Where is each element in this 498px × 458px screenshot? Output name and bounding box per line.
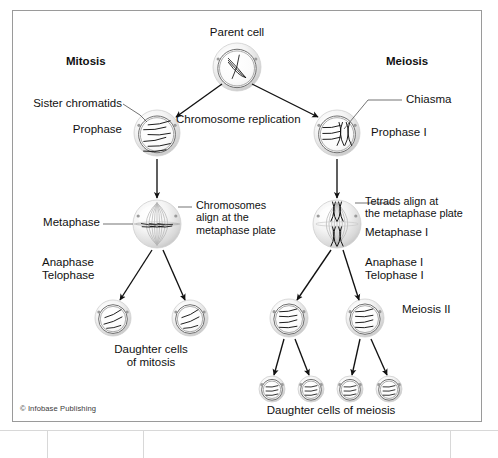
page-rule-vertical-right [450, 430, 451, 458]
page-rule-vertical-mid [143, 430, 144, 458]
label-anaphase-telophase: Anaphase Telophase [42, 256, 94, 282]
label-daughter-cells-meiosis: Daughter cells of meiosis [240, 404, 422, 417]
label-prophase-i: Prophase I [371, 126, 427, 139]
column-heading-meiosis: Meiosis [386, 55, 428, 68]
copyright-credit: © Infobase Publishing [20, 404, 96, 413]
label-tetrads-align: Tetrads align at the metaphase plate [365, 195, 463, 220]
label-anaphase-telophase-i: Anaphase I Telophase I [365, 256, 424, 282]
page-rule-horizontal [0, 430, 498, 431]
figure-canvas: Parent cell Mitosis Meiosis Sister chrom… [0, 0, 498, 458]
label-chiasma: Chiasma [406, 93, 451, 106]
parent-cell-label: Parent cell [187, 26, 287, 39]
label-daughter-cells-mitosis: Daughter cells of mitosis [91, 343, 211, 369]
label-meiosis-ii: Meiosis II [402, 303, 451, 316]
label-chromosome-replication: Chromosome replication [176, 113, 301, 126]
label-metaphase: Metaphase [0, 216, 100, 229]
page-rule-vertical-left [47, 430, 48, 458]
label-metaphase-i: Metaphase I [365, 226, 428, 239]
label-sister-chromatids: Sister chromatids [0, 97, 122, 110]
label-prophase: Prophase [0, 123, 122, 136]
column-heading-mitosis: Mitosis [66, 55, 106, 68]
label-chromosomes-align: Chromosomes align at the metaphase plate [196, 199, 276, 236]
